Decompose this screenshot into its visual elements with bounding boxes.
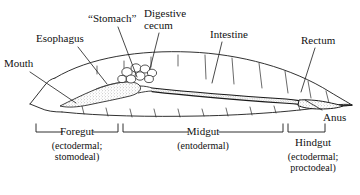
- bracket-hindgut: [288, 124, 325, 132]
- label-rectum: Rectum: [301, 35, 335, 47]
- region-sublabel-hindgut: (ectodermal; proctodeal): [268, 151, 358, 173]
- label-esophagus: Esophagus: [36, 33, 84, 45]
- leader-cecum: [150, 33, 159, 69]
- region-label-foregut: Foregut: [47, 126, 107, 138]
- region-label-hindgut: Hindgut: [282, 137, 344, 149]
- leader-mouth: [30, 72, 76, 103]
- label-stomach: “Stomach”: [88, 13, 136, 25]
- label-digestive-cecum: Digestive cecum: [144, 8, 186, 31]
- figure-canvas: Mouth Esophagus “Stomach” Digestive cecu…: [0, 0, 360, 195]
- region-sublabel-midgut: (entodermal): [158, 140, 248, 151]
- leader-rectum: [301, 48, 315, 92]
- label-mouth: Mouth: [4, 58, 33, 70]
- label-anus: Anus: [323, 112, 346, 124]
- leader-intestine: [212, 42, 222, 83]
- region-sublabel-foregut: (ectodermal; stomodeal): [32, 140, 122, 162]
- label-intestine: Intestine: [210, 29, 248, 41]
- region-label-midgut: Midgut: [173, 126, 233, 138]
